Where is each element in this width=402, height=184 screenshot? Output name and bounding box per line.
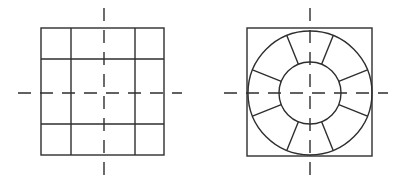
radial-spoke: [322, 122, 334, 151]
radial-spoke: [253, 105, 282, 117]
radial-spoke: [322, 36, 334, 65]
radial-spoke: [253, 70, 282, 82]
grid-square-figure: [18, 8, 182, 178]
ring-square-figure: [224, 8, 388, 178]
radial-spoke: [287, 36, 299, 65]
radial-spoke: [287, 122, 299, 151]
diagram-svg: [0, 0, 402, 184]
diagram-canvas: [0, 0, 402, 184]
radial-spoke: [339, 105, 368, 117]
radial-spoke: [339, 70, 368, 82]
outer-square: [41, 28, 164, 155]
inner-circle: [279, 62, 341, 124]
outer-circle: [248, 31, 372, 155]
